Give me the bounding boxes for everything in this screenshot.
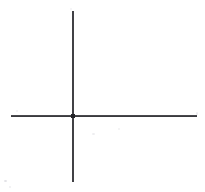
- scan-speck: [92, 133, 95, 135]
- scan-speck: [9, 186, 11, 188]
- horizontal-axis-line: [11, 115, 197, 117]
- scan-speck: [16, 110, 18, 112]
- scan-speck: [4, 180, 7, 182]
- scan-speck: [118, 128, 120, 130]
- vertical-axis-line: [72, 11, 74, 182]
- scan-speck: [70, 8, 72, 10]
- figure-canvas: [0, 0, 205, 192]
